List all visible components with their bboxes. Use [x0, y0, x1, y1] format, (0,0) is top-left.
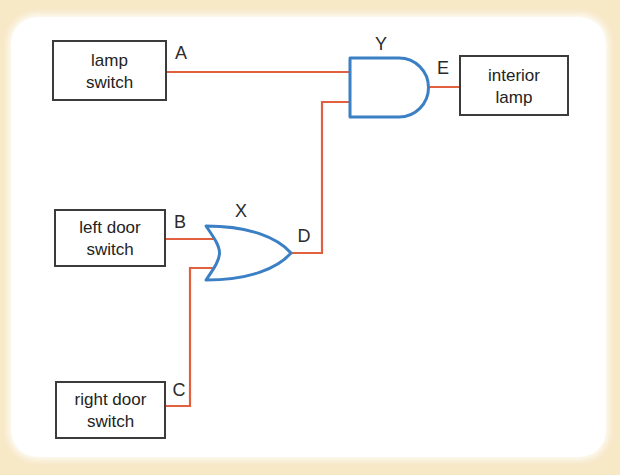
- gate-x-label: X: [235, 201, 247, 221]
- signal-label-d: D: [298, 226, 311, 246]
- signal-label-e: E: [437, 58, 449, 78]
- block-lamp-switch-line2: switch: [86, 73, 133, 92]
- circuit-diagram: lamp switch left door switch right door …: [0, 0, 620, 475]
- signal-label-c: C: [173, 380, 186, 400]
- gate-y-and-shape[interactable]: [350, 58, 429, 117]
- block-interior-lamp-line1: interior: [488, 66, 540, 85]
- block-right-door-switch-line2: switch: [87, 412, 134, 431]
- block-left-door-switch-line1: left door: [79, 218, 141, 237]
- signal-label-a: A: [175, 43, 187, 63]
- block-right-door-switch-line1: right door: [75, 390, 147, 409]
- block-left-door-switch-line2: switch: [86, 240, 133, 259]
- signal-label-b: B: [174, 212, 186, 232]
- block-lamp-switch-line1: lamp: [91, 51, 128, 70]
- block-interior-lamp-line2: lamp: [496, 88, 533, 107]
- gate-y-label: Y: [375, 34, 387, 54]
- figure-root: lamp switch left door switch right door …: [0, 0, 620, 475]
- gate-x-or-shape[interactable]: [206, 226, 291, 280]
